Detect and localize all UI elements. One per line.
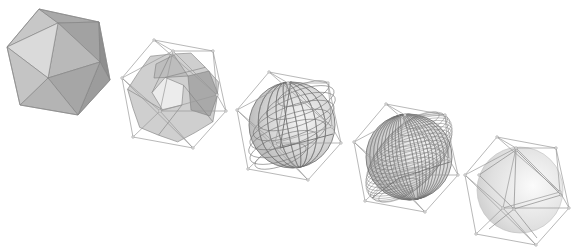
cage-vertex-point (132, 136, 134, 138)
cage-vertex-point (555, 147, 557, 149)
cage-vertex-point (464, 174, 466, 176)
cage-vertex-point (385, 103, 387, 105)
cage-vertex-point (331, 126, 333, 128)
cage-vertex-point (192, 147, 194, 149)
cage-vertex-point (391, 174, 393, 176)
cage-vertex-point (216, 94, 218, 96)
cage-vertex-point (159, 110, 161, 112)
cage-vertex-point (515, 147, 517, 149)
cage-vertex-point (568, 207, 570, 209)
stage-icosahedron (7, 9, 110, 115)
cage-vertex-point (559, 191, 561, 193)
cage-vertex-point (404, 114, 406, 116)
subdivision-diagram (0, 0, 571, 249)
cage-vertex-point (153, 39, 155, 41)
cage-vertex-point (236, 109, 238, 111)
cage-vertex-point (225, 110, 227, 112)
cage-vertex-point (121, 77, 123, 79)
cage-vertex-point (287, 82, 289, 84)
cage-vertex-point (448, 158, 450, 160)
cage-vertex-point (212, 50, 214, 52)
cage-vertex-point (268, 71, 270, 73)
cage-vertex-point (247, 168, 249, 170)
cage-vertex-point (535, 244, 537, 246)
cage-vertex-point (444, 114, 446, 116)
cage-vertex-point (307, 179, 309, 181)
cage-vertex-point (327, 82, 329, 84)
cage-vertex-point (424, 211, 426, 213)
smooth-sphere (477, 147, 563, 233)
stage-subdivision-level-2 (236, 71, 342, 181)
cage-vertex-point (274, 142, 276, 144)
cage-vertex-point (475, 233, 477, 235)
cage-vertex-point (172, 50, 174, 52)
stage-limit-surface (464, 136, 570, 246)
cage-vertex-point (353, 141, 355, 143)
stage-subdivision-level-1 (121, 39, 227, 149)
stage-subdivision-level-3 (353, 103, 459, 213)
cage-vertex-point (457, 174, 459, 176)
cage-vertex-point (340, 142, 342, 144)
cage-vertex-point (364, 200, 366, 202)
cage-vertex-point (502, 207, 504, 209)
cage-vertex-point (496, 136, 498, 138)
